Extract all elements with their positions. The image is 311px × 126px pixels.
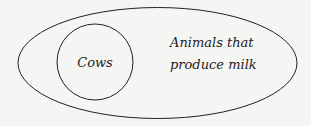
euler-diagram: Cows Animals that produce milk [0,0,311,126]
inner-set-label: Cows [77,55,113,70]
outer-set-label-line1: Animals that [169,35,254,50]
outer-set-label-line2: produce milk [170,57,257,72]
